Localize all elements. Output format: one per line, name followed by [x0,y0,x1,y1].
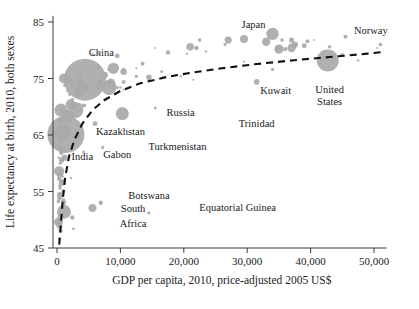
bubble-point [223,43,226,46]
bubble-point [74,92,76,94]
bubble-point [83,87,86,90]
bubble-point [83,68,85,70]
bubble-point [63,151,66,154]
bubble-point [115,54,120,59]
y-tick-label: 85 [33,16,45,28]
y-tick-label: 75 [33,73,45,85]
chart-figure: 4555657585 010,00020,00030,00040,00050,0… [0,0,419,309]
scatter-plot-canvas: 4555657585 010,00020,00030,00040,00050,0… [0,0,419,309]
bubble-point [60,111,63,114]
bubble-point [60,151,62,153]
bubble-point [77,110,79,112]
bubble-point [64,125,68,129]
bubble-point [289,37,294,42]
bubble-point [97,66,100,69]
y-axis-title: Life expectancy at birth, 2010, both sex… [4,35,17,228]
bubble-point [75,84,77,86]
bubble-point [70,82,73,85]
bubble-point [68,113,74,119]
bubble-point [60,160,62,162]
x-tick-label: 40,000 [295,255,326,267]
bubble-point [72,227,75,230]
bubble-point [302,43,307,48]
country-label: Trinidad [239,118,276,129]
bubble-point [81,87,83,89]
bubble-point [74,86,77,89]
bubble-point [186,43,194,51]
bubble-point [63,84,66,87]
x-tick-label: 0 [54,255,60,267]
x-axis-title: GDP per capita, 2010, price-adjusted 200… [112,274,332,287]
bubble-point [64,111,67,114]
bubble-point [254,79,260,85]
bubble-point [99,201,103,205]
bubble-point [74,89,80,95]
bubble-point [79,74,81,76]
bubble-point [59,197,61,199]
bubble-point [57,156,59,158]
bubble-point [225,36,232,43]
bubble-point [123,89,125,91]
bubble-point [122,68,125,71]
bubble-point [154,106,157,109]
bubble-point [343,35,347,39]
y-tick-label: 65 [33,129,45,141]
country-label: India [72,151,94,162]
bubble-point [116,107,129,120]
bubble-point [317,49,339,71]
bubble-point [313,39,315,41]
bubble-point [154,47,156,49]
y-tick-label: 45 [33,242,45,254]
bubble-point [194,46,198,50]
x-tick-label: 50,000 [359,255,390,267]
bubble-point [277,46,281,50]
bubble-point [85,81,87,83]
bubble-point [205,50,207,52]
bubble-point [71,100,73,102]
x-tick-label: 30,000 [232,255,263,267]
bubble-point [97,79,103,85]
bubble-point [106,79,115,88]
bubble-point [77,67,80,70]
bubble-point [271,68,274,71]
bubble-point [63,120,65,122]
x-axis-ticks: 010,00020,00030,00040,00050,000 [54,248,389,267]
bubble-point [60,220,63,223]
bubble-point [107,68,110,71]
country-label: South [121,203,146,214]
bubble-point [376,47,378,49]
bubble-point [160,70,163,73]
bubble-point [57,199,60,202]
bubble-point [141,62,145,66]
bubble-point [58,184,61,187]
bubble-point [85,105,87,107]
country-label: United [315,84,344,95]
bubble-point [146,75,152,81]
bubble-point [357,59,359,61]
bubble-point [135,67,137,69]
bubble-point [59,193,63,197]
country-label: Turkmenistan [148,141,207,152]
country-label: Norway [354,25,389,36]
bubble-point [62,176,64,178]
bubble-point [70,177,72,179]
bubble-point [78,103,81,106]
x-tick-label: 20,000 [169,255,200,267]
country-label: Africa [120,218,147,229]
bubble-point [179,75,181,77]
bubble-point [243,61,245,63]
bubble-point [280,38,284,42]
country-label: Kuwait [260,85,291,96]
country-label: China [89,47,114,58]
bubble-point [101,72,108,79]
bubble-point [135,75,137,77]
bubble-point [262,38,270,46]
bubble-point [70,215,74,219]
point-annotations: ChinaJapanNorwayKuwaitUnitedStatesRussia… [72,19,389,229]
bubble-point [68,93,71,96]
bubble-point [89,204,97,212]
x-tick-label: 10,000 [105,255,136,267]
bubble-point [283,47,287,51]
country-label: Kazakhstan [96,126,146,137]
bubble-point [97,87,99,89]
